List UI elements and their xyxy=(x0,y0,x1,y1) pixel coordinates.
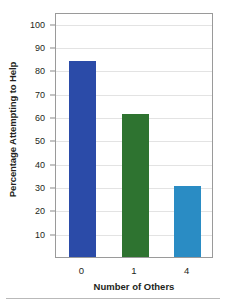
bottom-divider xyxy=(6,298,220,299)
x-axis-tick-label: 0 xyxy=(79,265,84,276)
x-axis-tick-label: 1 xyxy=(131,265,136,276)
x-axis-tick-label: 4 xyxy=(184,265,189,276)
x-axis-tick-labels: 014 xyxy=(0,0,226,307)
x-axis-title: Number of Others xyxy=(55,281,213,292)
bar-chart-figure: Percentage Attempting to Help 1020304050… xyxy=(0,0,226,307)
